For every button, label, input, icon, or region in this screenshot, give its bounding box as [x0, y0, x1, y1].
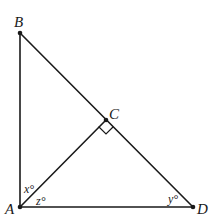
point-c [104, 118, 109, 123]
point-b [18, 31, 23, 36]
label-d: D [197, 202, 208, 217]
point-d [191, 205, 196, 210]
right-angle-marker [99, 127, 113, 134]
angle-z-label: z° [36, 195, 45, 207]
label-b: B [14, 15, 23, 30]
label-c: C [109, 107, 119, 122]
point-a [18, 205, 23, 210]
label-a: A [5, 202, 14, 217]
angle-y-label: y° [168, 193, 178, 205]
angle-x-label: x° [24, 183, 34, 195]
